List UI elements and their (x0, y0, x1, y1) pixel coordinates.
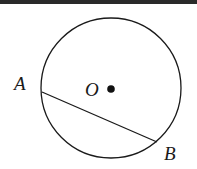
circle-diagram: O A B (0, 0, 197, 169)
center-point-dot (107, 85, 115, 93)
center-label: O (85, 79, 99, 100)
point-b-label: B (164, 143, 176, 164)
point-a-label: A (12, 73, 26, 94)
